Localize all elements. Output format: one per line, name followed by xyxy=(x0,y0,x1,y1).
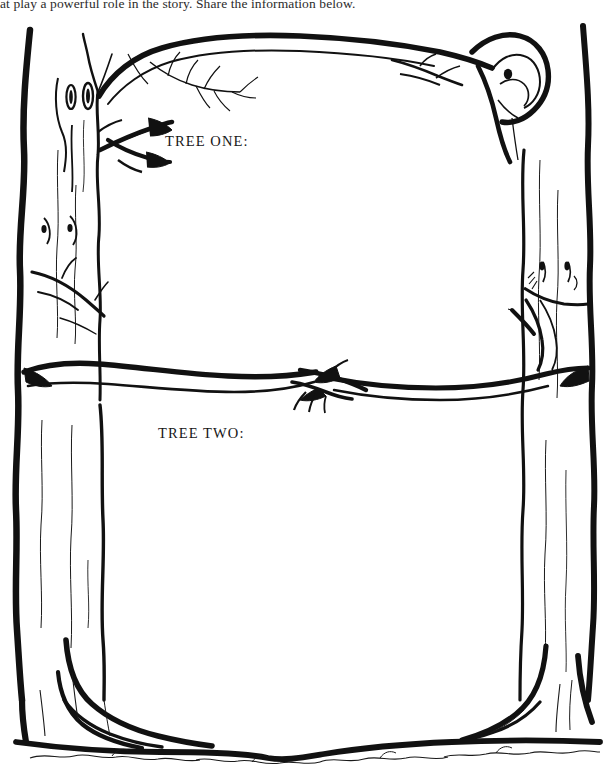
tree-frame-illustration xyxy=(0,0,615,773)
right-tree-trunk xyxy=(508,26,594,700)
worksheet-page: at play a powerful role in the story. Sh… xyxy=(0,0,615,773)
top-right-knot-joint xyxy=(472,35,548,162)
field-label-tree-one: TREE ONE: xyxy=(165,133,249,150)
knot-holes-upper-left xyxy=(56,78,93,192)
center-twig-cluster xyxy=(292,360,366,413)
field-label-tree-two: TREE TWO: xyxy=(158,425,245,442)
knot-holes-right xyxy=(528,262,577,290)
top-arching-branch xyxy=(98,35,492,172)
top-branch-twigs xyxy=(128,52,258,111)
right-trunk-branch-joint xyxy=(508,288,588,370)
write-area-tree-one[interactable] xyxy=(120,155,500,340)
right-top-twigs xyxy=(392,54,462,85)
knot-holes-mid-left xyxy=(41,216,76,245)
write-area-tree-two[interactable] xyxy=(110,450,500,635)
middle-horizontal-branch xyxy=(24,360,589,413)
